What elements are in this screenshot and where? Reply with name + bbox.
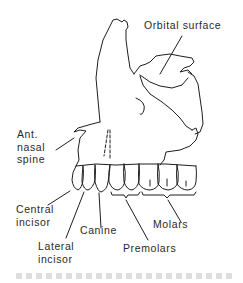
alveolar-margin [76, 164, 196, 166]
canine-eminence-dashed-left [104, 130, 108, 156]
tooth-molar-1 [139, 164, 160, 190]
figure-caption-cropped [16, 273, 236, 279]
teeth-row [72, 164, 197, 192]
label-lateral-incisor: Lateral incisor [38, 240, 74, 265]
label-ant-nasal-spine: Ant. nasal spine [17, 128, 45, 166]
molar-root-marks [150, 179, 186, 186]
tooth-premolar-2 [124, 164, 140, 190]
tooth-molar-3 [177, 165, 197, 190]
canine-fossa [136, 98, 144, 115]
label-central-incisor: Central incisor [16, 203, 54, 228]
leader-canine [99, 193, 101, 228]
label-ant-nasal-spine-line-3: spine [17, 153, 45, 166]
maxillary-tuberosity [160, 128, 198, 165]
nasal-notch-outline [74, 122, 100, 166]
label-orbital-surface: Orbital surface [144, 19, 221, 32]
label-molars: Molars [153, 218, 188, 231]
posterior-border [188, 72, 203, 134]
label-central-incisor-line-1: Central [16, 203, 54, 216]
label-central-incisor-line-2: incisor [16, 216, 54, 229]
label-premolars: Premolars [123, 242, 176, 255]
label-lateral-incisor-line-2: incisor [38, 253, 74, 266]
label-canine: Canine [80, 224, 117, 237]
tooth-canine [95, 165, 111, 192]
label-lateral-incisor-line-1: Lateral [38, 240, 74, 253]
orbital-surface-outline [134, 54, 194, 74]
label-ant-nasal-spine-line-2: nasal [17, 141, 45, 154]
tooth-premolar-1 [109, 164, 126, 190]
tooth-lateral-incisor [82, 165, 96, 190]
premolars-bracket [111, 192, 140, 198]
label-ant-nasal-spine-line-1: Ant. [17, 128, 45, 141]
tooth-molar-2 [158, 164, 179, 190]
orbital-surface-lower-rim [140, 75, 188, 88]
leader-premolars [126, 200, 148, 240]
leader-ant-nasal-spine [56, 138, 74, 150]
molars-bracket [142, 192, 196, 198]
zygomatic-process-outline [140, 76, 192, 130]
frontal-process-outline [96, 19, 134, 122]
